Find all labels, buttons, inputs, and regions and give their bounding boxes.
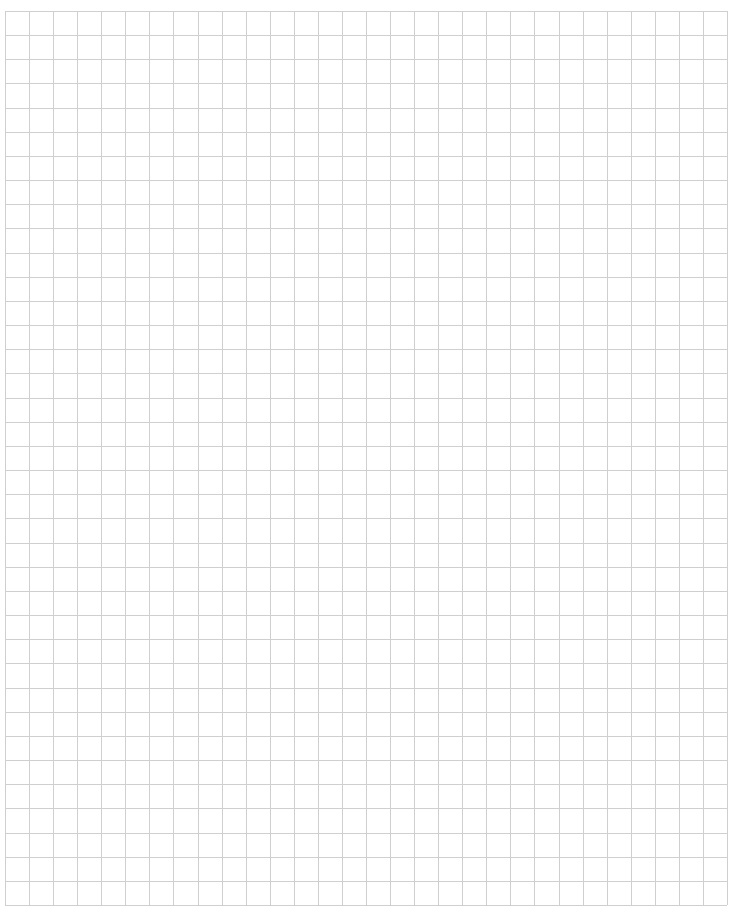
graph-paper-grid: [0, 0, 732, 909]
